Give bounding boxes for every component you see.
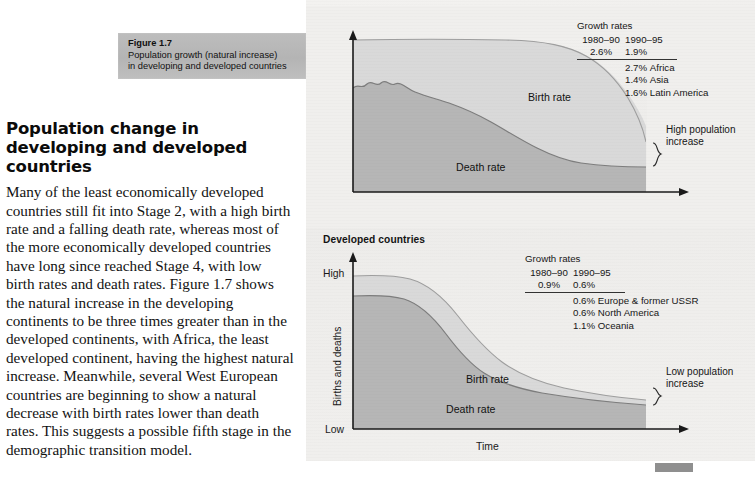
growth-region-row-developed-2: 1.1% Oceania	[525, 320, 698, 333]
growth-rates-developing: Growth rates 1980–901990–95 2.6%1.9% 2.7…	[577, 20, 709, 100]
low-population-increase-note: Low population increase	[666, 366, 733, 391]
growth-region-name-developed-1: North America	[598, 307, 659, 320]
page-title: Population change in developing and deve…	[6, 119, 286, 176]
growth-region-name-developed-0: Europe & former USSR	[598, 295, 699, 308]
growth-values-row-developed: 0.9%0.6%	[525, 279, 625, 293]
high-increase-line-2: increase	[666, 136, 736, 148]
growth-region-name-developed-2: Oceania	[598, 320, 634, 333]
high-increase-line-1: High population	[666, 124, 736, 136]
growth-region-name-developing-2: Latin America	[650, 87, 709, 100]
article-body-text: Many of the least economically developed…	[6, 183, 294, 459]
growth-region-name-developing-0: Africa	[650, 62, 675, 75]
growth-region-row-developing-1: 1.4% Asia	[577, 74, 709, 87]
series-label-death-rate-developed: Death rate	[446, 403, 495, 415]
growth-region-row-developing-0: 2.7% Africa	[577, 62, 709, 75]
growth-rates-periods-developing: 1980–901990–95	[577, 34, 709, 47]
low-increase-line-1: Low population	[666, 366, 733, 378]
growth-rates-title-developed: Growth rates	[525, 253, 698, 266]
growth-region-row-developing-2: 1.6% Latin America	[577, 87, 709, 100]
figure-caption-text: Figure 1.7 Population growth (natural in…	[118, 33, 306, 73]
growth-region-value-developed-1: 0.6%	[573, 307, 595, 320]
figure-caption-line-2: in developing and developed countries	[128, 61, 300, 73]
page-edge-marker	[655, 463, 693, 472]
growth-region-value-developing-2: 1.6%	[625, 87, 647, 100]
x-axis-arrow-developed	[679, 425, 689, 433]
growth-region-value-developed-0: 0.6%	[573, 295, 595, 308]
figure-panel: Developing countries High Low Births and…	[306, 0, 755, 461]
growth-period-1-developed: 1980–90	[525, 267, 573, 280]
y-axis-arrow-developed	[349, 252, 357, 262]
growth-values-row-developing: 2.6%1.9%	[577, 46, 677, 60]
growth-region-row-developed-0: 0.6% Europe & former USSR	[525, 295, 698, 308]
series-label-death-rate-developing: Death rate	[456, 161, 505, 173]
growth-region-value-developing-1: 1.4%	[625, 74, 647, 87]
growth-rates-developed: Growth rates 1980–901990–95 0.9%0.6% 0.6…	[525, 253, 698, 333]
figure-caption-label: Figure 1.7	[128, 38, 300, 50]
high-population-increase-note: High population increase	[666, 124, 736, 149]
growth-period-2-developed: 1990–95	[573, 267, 627, 280]
low-increase-line-2: increase	[666, 378, 733, 390]
growth-value-2-developing: 1.9%	[625, 46, 673, 59]
growth-value-1-developing: 2.6%	[577, 46, 625, 59]
growth-period-2-developing: 1990–95	[625, 34, 679, 47]
growth-region-value-developed-2: 1.1%	[573, 320, 595, 333]
growth-region-row-developed-1: 0.6% North America	[525, 307, 698, 320]
growth-period-1-developing: 1980–90	[577, 34, 625, 47]
figure-caption-line-1: Population growth (natural increase)	[128, 50, 300, 62]
growth-value-1-developed: 0.9%	[525, 279, 573, 292]
growth-rates-periods-developed: 1980–901990–95	[525, 267, 698, 280]
series-label-birth-rate-developed: Birth rate	[466, 373, 509, 385]
growth-region-value-developing-0: 2.7%	[625, 62, 647, 75]
low-increase-bracket	[653, 388, 661, 405]
chart-developed-countries: Developed countries High Low Births and …	[306, 228, 755, 461]
growth-region-name-developing-1: Asia	[650, 74, 669, 87]
figure-caption-box: Figure 1.7 Population growth (natural in…	[118, 33, 306, 79]
series-label-birth-rate-developing: Birth rate	[528, 91, 571, 103]
growth-rates-title-developing: Growth rates	[577, 20, 709, 33]
chart-developing-countries: Developing countries High Low Births and…	[306, 6, 755, 228]
growth-value-2-developed: 0.6%	[573, 279, 621, 292]
